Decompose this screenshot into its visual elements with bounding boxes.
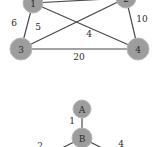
node-B-label: B	[79, 134, 86, 144]
edge-weight-B-left: 2	[37, 141, 43, 147]
edge-weight-1-4: 4	[86, 29, 92, 39]
node-4-label: 4	[135, 45, 141, 55]
node-A: A	[73, 100, 91, 118]
node-1: 1	[23, 0, 43, 13]
node-B: B	[72, 128, 92, 147]
edge-weight-A-B: 1	[69, 116, 75, 126]
node-2: 2	[116, 0, 136, 8]
node-1-label: 1	[30, 0, 36, 9]
node-3-label: 3	[18, 45, 24, 55]
edge-weight-1-3: 6	[11, 18, 17, 28]
node-4: 4	[127, 38, 149, 60]
edge-weight-3-2: 5	[35, 22, 41, 32]
edge-1-2	[33, 0, 126, 3]
graph-diagram: 6 5 4 10 20 1 2 3 4 1 2 4 A B	[0, 0, 168, 147]
edge-1-4	[33, 3, 138, 49]
edge-weight-B-right: 4	[118, 139, 124, 147]
node-2-label: 2	[123, 0, 129, 4]
edge-weight-3-4: 20	[73, 52, 85, 62]
node-3: 3	[10, 38, 32, 60]
node-A-label: A	[78, 105, 86, 115]
edge-weight-2-4: 10	[136, 14, 148, 24]
